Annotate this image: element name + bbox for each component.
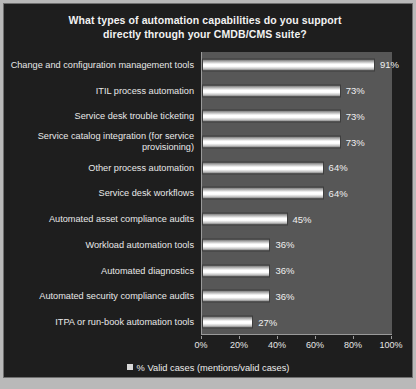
chart-legend: % Valid cases (mentions/valid cases) [0, 358, 416, 376]
bar-value-label: 36% [275, 239, 294, 250]
category-label: ITIL process automation [2, 85, 194, 96]
bar-wrapper: 45% [202, 213, 288, 226]
x-axis: 0%20%40%60%80%100% [201, 336, 393, 352]
x-axis-tick [201, 336, 202, 339]
bar-wrapper: 73% [202, 110, 341, 123]
x-axis-tick-label: 100% [379, 340, 402, 350]
bar-rows: Change and configuration management tool… [0, 52, 416, 335]
x-axis-tick-label: 80% [344, 340, 362, 350]
bar [202, 110, 341, 123]
bar-wrapper: 27% [202, 316, 253, 329]
bar-value-label: 64% [329, 162, 348, 173]
bar-value-label: 64% [329, 188, 348, 199]
bar-row: Automated diagnostics36% [0, 258, 416, 284]
bar-row: Workload automation tools36% [0, 232, 416, 258]
bar-wrapper: 91% [202, 58, 375, 71]
bar-row: Other process automation64% [0, 155, 416, 181]
bar-wrapper: 64% [202, 161, 324, 174]
category-label: Service catalog integration (for service… [2, 131, 194, 153]
category-label: Service desk trouble ticketing [2, 111, 194, 122]
x-axis-tick-label: 0% [194, 340, 207, 350]
bar-wrapper: 36% [202, 264, 270, 277]
legend-label: % Valid cases (mentions/valid cases) [137, 363, 290, 373]
category-label: Change and configuration management tool… [2, 59, 194, 70]
category-label: Automated diagnostics [2, 265, 194, 276]
bar-row: Automated asset compliance audits45% [0, 206, 416, 232]
bar-value-label: 27% [258, 317, 277, 328]
chart-container: What types of automation capabilities do… [0, 0, 416, 389]
bar [202, 238, 270, 251]
bar-value-label: 73% [346, 85, 365, 96]
bar-value-label: 73% [346, 137, 365, 148]
bar-wrapper: 64% [202, 187, 324, 200]
x-axis-tick-label: 40% [268, 340, 286, 350]
bar-row: Service catalog integration (for service… [0, 129, 416, 155]
x-axis-tick [239, 336, 240, 339]
legend-swatch-icon [127, 364, 133, 370]
bar-value-label: 45% [293, 214, 312, 225]
x-axis-tick [315, 336, 316, 339]
x-axis-tick-label: 20% [230, 340, 248, 350]
bar-value-label: 91% [380, 59, 399, 70]
x-axis-tick [391, 336, 392, 339]
bar [202, 290, 270, 303]
category-label: Workload automation tools [2, 239, 194, 250]
category-label: Service desk workflows [2, 188, 194, 199]
category-label: Other process automation [2, 162, 194, 173]
bar-value-label: 36% [275, 265, 294, 276]
chart-title-line-1: What types of automation capabilities do… [30, 13, 380, 27]
bar [202, 187, 324, 200]
bar-wrapper: 36% [202, 238, 270, 251]
bar-wrapper: 73% [202, 84, 341, 97]
x-axis-tick [277, 336, 278, 339]
bar-row: Automated security compliance audits36% [0, 284, 416, 310]
bar [202, 213, 288, 226]
bar-wrapper: 36% [202, 290, 270, 303]
bar-value-label: 36% [275, 291, 294, 302]
category-label: Automated security compliance audits [2, 291, 194, 302]
bar-row: ITPA or run-book automation tools27% [0, 309, 416, 335]
chart-title: What types of automation capabilities do… [30, 13, 380, 41]
bar [202, 136, 341, 149]
category-label: Automated asset compliance audits [2, 214, 194, 225]
bar [202, 84, 341, 97]
bar-value-label: 73% [346, 111, 365, 122]
bar-row: ITIL process automation73% [0, 78, 416, 104]
chart-title-line-2: directly through your CMDB/CMS suite? [30, 27, 380, 41]
bar-row: Change and configuration management tool… [0, 52, 416, 78]
bar-wrapper: 73% [202, 136, 341, 149]
bar [202, 264, 270, 277]
bar [202, 58, 375, 71]
bar [202, 316, 253, 329]
x-axis-tick-label: 60% [306, 340, 324, 350]
bar-row: Service desk trouble ticketing73% [0, 103, 416, 129]
legend-entry: % Valid cases (mentions/valid cases) [127, 358, 290, 376]
category-label: ITPA or run-book automation tools [2, 317, 194, 328]
bar-row: Service desk workflows64% [0, 181, 416, 207]
bar [202, 161, 324, 174]
x-axis-tick [353, 336, 354, 339]
